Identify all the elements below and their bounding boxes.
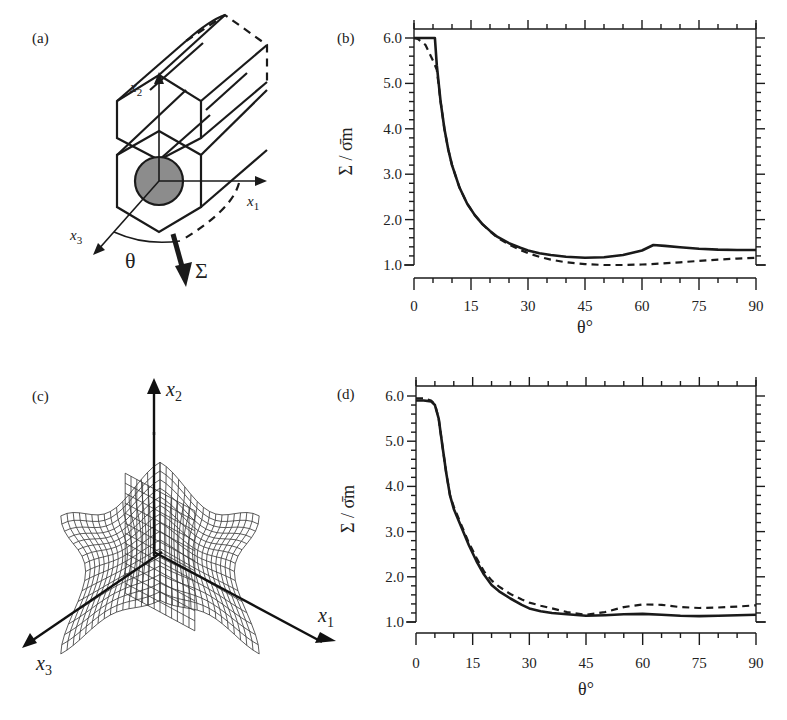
x-axis-title: θ° [578, 679, 594, 699]
y-tick-label: 1.0 [385, 614, 404, 630]
y-tick-label: 6.0 [385, 388, 404, 404]
y-tick-label: 6.0 [383, 30, 402, 46]
panel-b: (b) 01530456075901.02.03.04.05.06.0θ°Σ /… [0, 0, 787, 340]
y-tick-label: 2.0 [385, 569, 404, 585]
x-tick-label: 15 [464, 298, 479, 314]
panel-d: (d) 01530456075901.02.03.04.05.06.0θ°Σ /… [0, 340, 787, 720]
x-tick-label: 75 [692, 298, 707, 314]
y-tick-label: 2.0 [383, 212, 402, 228]
x-tick-label: 90 [749, 655, 764, 671]
x-tick-label: 30 [522, 655, 537, 671]
x-tick-label: 90 [749, 298, 764, 314]
x-tick-label: 75 [692, 655, 707, 671]
axes [406, 377, 766, 645]
chart-d: 01530456075901.02.03.04.05.06.0θ°Σ / σ̄m [0, 340, 787, 720]
y-tick-label: 3.0 [385, 524, 404, 540]
x-axis-title: θ° [577, 317, 593, 337]
series-solid [416, 401, 756, 617]
y-tick-label: 4.0 [385, 478, 404, 494]
y-tick-label: 1.0 [383, 257, 402, 273]
x-tick-label: 60 [635, 655, 650, 671]
y-axis-title: Σ / σ̄m [338, 485, 358, 533]
x-tick-label: 0 [412, 655, 420, 671]
x-tick-label: 30 [521, 298, 536, 314]
y-tick-label: 4.0 [383, 121, 402, 137]
x-tick-label: 45 [579, 655, 594, 671]
y-tick-label: 5.0 [385, 433, 404, 449]
x-tick-label: 45 [578, 298, 593, 314]
series-dashed [416, 398, 756, 615]
y-tick-label: 3.0 [383, 166, 402, 182]
series-dashed [414, 38, 756, 265]
x-tick-label: 15 [465, 655, 480, 671]
y-tick-label: 5.0 [383, 75, 402, 91]
chart-b: 01530456075901.02.03.04.05.06.0θ°Σ / σ̄m [0, 0, 787, 340]
y-axis-title: Σ / σ̄m [336, 127, 356, 175]
x-tick-label: 0 [410, 298, 418, 314]
series-solid [414, 38, 756, 258]
x-tick-label: 60 [635, 298, 650, 314]
